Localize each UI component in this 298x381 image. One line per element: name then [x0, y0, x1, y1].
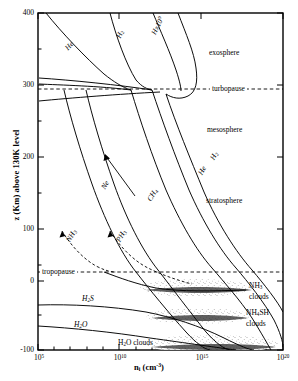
region-label-exosphere: exosphere [209, 48, 239, 57]
cloud-label-nh4sh-word: clouds [246, 319, 266, 328]
xtick-1e5-exp: 5 [41, 353, 44, 359]
xtick-1e15-exp: 15 [203, 353, 208, 359]
region-label-stratosphere: stratosphere [206, 196, 242, 205]
region-label-tropopause: tropopause [40, 267, 77, 276]
figure-atmospheric-number-density: z (Km) above 130K level ni (cm-3) 400 30… [0, 0, 298, 381]
cloud-label-h2o-formula: H2O clouds [118, 338, 153, 347]
xtick-1e15: 1015 [187, 353, 217, 362]
region-label-turbopause: turbopause [210, 84, 247, 93]
cloud-label-nh4sh: NH4SH clouds [246, 308, 269, 328]
xtick-1e10-exp: 10 [121, 353, 126, 359]
xtick-1e20: 1020 [268, 353, 298, 362]
cloud-label-h2o: H2O clouds [118, 338, 153, 349]
x-axis-label: ni (cm-3) [0, 362, 298, 372]
xtick-1e5: 105 [26, 353, 52, 362]
ytick-200: 200 [4, 152, 34, 161]
region-label-mesosphere: mesosphere [207, 125, 242, 134]
x-axis-label-unit: (cm [140, 362, 156, 372]
ytick-100: 100 [4, 224, 34, 233]
cloud-label-nh3-formula: NH [249, 281, 260, 290]
y-axis-label: z (Km) above 130K level [11, 115, 21, 235]
cloud-label-nh3-word: clouds [249, 292, 269, 301]
ytick-0: 0 [4, 276, 34, 285]
ytick-400: 400 [4, 8, 34, 17]
xtick-1e10: 1010 [105, 353, 135, 362]
cloud-label-nh3-sub: 3 [260, 284, 263, 290]
cloud-label-nh3: NH3 clouds [249, 281, 269, 301]
plot-frame [38, 13, 283, 350]
x-axis-label-close: ) [161, 362, 164, 372]
species-label-h2o: H2O [74, 320, 87, 329]
species-label-h2s: H2S [82, 294, 94, 303]
cloud-label-nh4sh-formula: NH4SH [246, 308, 269, 317]
ytick-300: 300 [4, 80, 34, 89]
xtick-1e20-exp: 20 [284, 353, 289, 359]
